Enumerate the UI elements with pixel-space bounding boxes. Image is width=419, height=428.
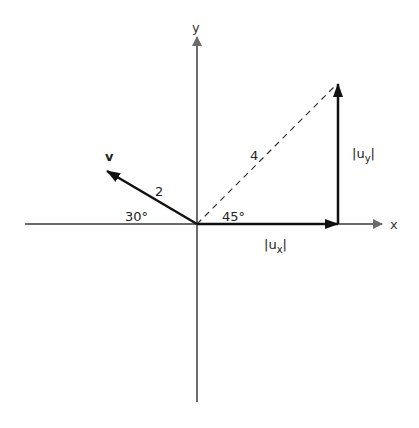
u-angle-label: 45° bbox=[222, 209, 245, 224]
v-angle-label: 30° bbox=[125, 209, 148, 224]
y-axis-label: y bbox=[192, 20, 200, 35]
x-axis-label: x bbox=[390, 217, 398, 232]
uy-label: |uy| bbox=[352, 146, 375, 164]
u-vector-dashed bbox=[197, 87, 334, 224]
v-magnitude-label: 2 bbox=[155, 184, 163, 199]
ux-label: |ux| bbox=[264, 237, 287, 255]
vector-diagram: y x v 2 30° 4 45° |ux| |uy| bbox=[0, 0, 419, 428]
v-vector-arrow bbox=[107, 171, 197, 224]
v-vector-label: v bbox=[105, 149, 114, 164]
u-magnitude-label: 4 bbox=[250, 148, 258, 163]
